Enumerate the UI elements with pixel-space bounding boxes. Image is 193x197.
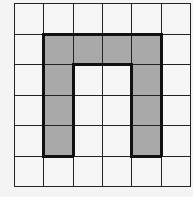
shaded-cell xyxy=(43,125,73,157)
shape-outline xyxy=(72,33,103,36)
grid-cell xyxy=(131,3,161,35)
shape-outline xyxy=(72,63,103,66)
grid-cell xyxy=(161,95,191,127)
shaded-cell xyxy=(73,34,103,66)
shape-outline xyxy=(72,63,75,96)
grid-cell xyxy=(102,95,132,127)
grid-cell xyxy=(161,156,191,188)
grid-cell xyxy=(102,64,132,96)
shape-outline xyxy=(72,124,75,157)
grid-cell xyxy=(161,3,191,35)
shape-outline xyxy=(72,94,75,127)
grid-cell xyxy=(14,3,44,35)
shaded-cell xyxy=(131,95,161,127)
shape-outline xyxy=(160,33,163,66)
shape-outline xyxy=(101,33,132,36)
grid-cell xyxy=(73,156,103,188)
shape-outline xyxy=(42,33,45,66)
grid-cell xyxy=(73,64,103,96)
shape-outline xyxy=(42,94,45,127)
grid-cell xyxy=(73,3,103,35)
shaded-cell xyxy=(131,34,161,66)
shape-outline xyxy=(130,33,161,36)
shape-outline xyxy=(42,33,73,36)
grid-cell xyxy=(14,34,44,66)
grid-cell xyxy=(73,125,103,157)
shaded-cell xyxy=(131,64,161,96)
grid-cell xyxy=(161,64,191,96)
shaded-cell xyxy=(43,95,73,127)
grid-cell xyxy=(131,156,161,188)
grid-cell xyxy=(14,64,44,96)
shape-outline xyxy=(130,155,161,158)
shape-outline xyxy=(42,155,73,158)
grid-cell xyxy=(14,95,44,127)
grid-cell xyxy=(43,156,73,188)
shape-outline xyxy=(130,63,133,96)
shape-outline xyxy=(160,124,163,157)
shaded-cell xyxy=(43,34,73,66)
shape-outline xyxy=(42,63,45,96)
shaded-cell xyxy=(102,34,132,66)
shaded-cell xyxy=(43,64,73,96)
grid-cell xyxy=(102,125,132,157)
grid-cell xyxy=(102,156,132,188)
grid-cell xyxy=(161,125,191,157)
shape-outline xyxy=(160,94,163,127)
grid xyxy=(14,3,190,186)
grid-cell xyxy=(102,3,132,35)
grid-cell xyxy=(43,3,73,35)
grid-cell xyxy=(14,156,44,188)
grid-cell xyxy=(161,34,191,66)
shape-outline xyxy=(101,63,132,66)
shape-outline xyxy=(160,63,163,96)
shape-outline xyxy=(42,124,45,157)
shape-outline xyxy=(130,124,133,157)
shape-outline xyxy=(130,94,133,127)
grid-cell xyxy=(14,125,44,157)
grid-cell xyxy=(73,95,103,127)
shaded-cell xyxy=(131,125,161,157)
